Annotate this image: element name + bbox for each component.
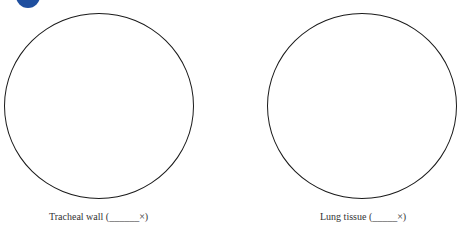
tracheal-wall-label: Tracheal wall (______×) xyxy=(49,211,148,222)
tracheal-wall-drawing-circle xyxy=(4,13,194,199)
lung-tissue-label: Lung tissue (_____×) xyxy=(320,211,406,222)
lung-tissue-drawing-circle xyxy=(267,13,457,199)
step-badge xyxy=(16,0,40,8)
